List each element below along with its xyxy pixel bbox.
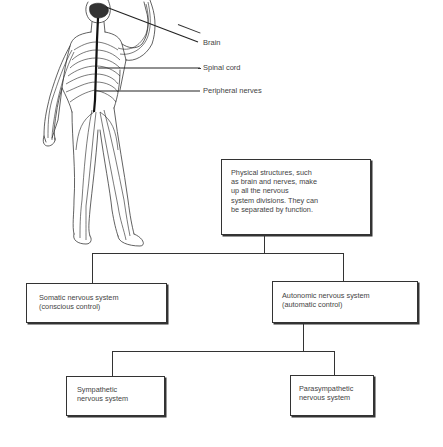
somatic-up-connector [92, 253, 93, 283]
parasympathetic-title: Parasympathetic [299, 384, 373, 393]
somatic-nervous-system-box: Somatic nervous system (conscious contro… [26, 283, 167, 323]
root-text-line: up all the nervous [231, 186, 370, 195]
autonomic-title: Autonomic nervous system [282, 291, 417, 300]
root-text-line: as brain and nerves, make [231, 177, 370, 186]
autonomic-down-connector [303, 324, 304, 351]
level2-horizontal-connector [112, 351, 335, 352]
parasympathetic-subtitle: nervous system [299, 393, 373, 402]
root-text-line: system divisions. They can [231, 196, 370, 205]
root-down-connector [264, 236, 265, 254]
parasympathetic-nervous-system-box: Parasympathetic nervous system [290, 375, 374, 416]
autonomic-subtitle: (automatic control) [282, 300, 417, 309]
spinal-cord-label: Spinal cord [203, 63, 241, 72]
brain-label: Brain [203, 38, 221, 47]
root-text-line: be separated by function. [231, 205, 370, 214]
peripheral-nerves-label: Peripheral nerves [203, 86, 262, 95]
autonomic-nervous-system-box: Autonomic nervous system (automatic cont… [272, 281, 418, 323]
somatic-title: Somatic nervous system [39, 293, 166, 302]
somatic-subtitle: (conscious control) [39, 302, 166, 311]
sympathetic-up-connector [112, 351, 113, 376]
sympathetic-nervous-system-box: Sympathetic nervous system [66, 376, 165, 416]
autonomic-up-connector [343, 253, 344, 281]
sympathetic-title: Sympathetic [77, 385, 164, 394]
level1-horizontal-connector [92, 253, 344, 254]
spinal-cord-leader-line [198, 68, 201, 69]
root-description-box: Physical structures, such as brain and n… [221, 159, 371, 235]
sympathetic-subtitle: nervous system [77, 394, 164, 403]
nervous-system-figure-illustration [0, 0, 200, 250]
parasympathetic-up-connector [334, 351, 335, 375]
root-text-line: Physical structures, such [231, 168, 370, 177]
